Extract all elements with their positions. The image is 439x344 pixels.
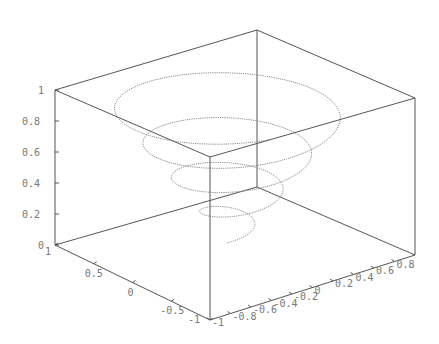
- tick-mark: [371, 266, 374, 268]
- x-tick-label: 0.2: [335, 278, 353, 289]
- tick-mark: [133, 281, 136, 283]
- z-tick-label: 1: [38, 85, 44, 96]
- z-tick-label: 0: [38, 240, 44, 251]
- tick-mark: [289, 292, 292, 294]
- tick-mark: [310, 286, 313, 288]
- y-tick-label: 0.5: [85, 268, 103, 279]
- z-tick-label: 0.4: [22, 178, 40, 189]
- tick-mark: [248, 305, 251, 307]
- y-tick-label: -0.5: [160, 305, 184, 316]
- x-tick-label: 0.4: [356, 272, 374, 283]
- tick-mark: [392, 260, 395, 262]
- z-tick-label: 0.8: [22, 116, 40, 127]
- x-tick-label: 0.6: [376, 265, 394, 276]
- tick-mark: [171, 299, 174, 301]
- tick-mark: [269, 299, 272, 301]
- tick-mark: [94, 262, 97, 264]
- box-back-edges: [55, 30, 415, 255]
- y-tick-label: 1: [45, 246, 51, 257]
- x-tick-label: 0.8: [397, 259, 415, 270]
- y-tick-label: 0: [128, 287, 134, 298]
- tick-mark: [228, 312, 231, 314]
- y-tick-label: -1: [188, 314, 200, 325]
- z-tick-label: 0.6: [22, 147, 40, 158]
- 3d-plot: 00.20.40.60.8110.50-0.5-1-1-0.8-0.6-0.4-…: [0, 0, 439, 344]
- tick-mark: [330, 279, 333, 281]
- tick-mark: [351, 273, 354, 275]
- x-tick-label: 0: [315, 285, 321, 296]
- x-tick-label: -1: [212, 317, 224, 328]
- z-tick-label: 0.2: [22, 209, 40, 220]
